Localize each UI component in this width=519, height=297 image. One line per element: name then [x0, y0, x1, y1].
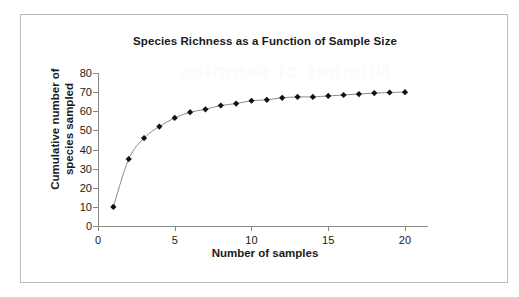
- data-point-marker: [310, 94, 316, 100]
- data-point-marker: [248, 98, 254, 104]
- x-tick-mark: [328, 226, 329, 231]
- x-tick-label: 5: [172, 234, 178, 246]
- x-tick-mark: [175, 226, 176, 231]
- data-point-marker: [294, 94, 300, 100]
- y-tick-label: 80: [58, 67, 98, 79]
- plot-area: 01020304050607080 05101520: [98, 73, 428, 226]
- y-tick-label: 20: [58, 182, 98, 194]
- y-tick-label: 70: [58, 86, 98, 98]
- data-point-marker: [126, 156, 132, 162]
- data-point-marker: [387, 89, 393, 95]
- data-point-marker: [279, 95, 285, 101]
- data-point-marker: [202, 106, 208, 112]
- data-point-marker: [218, 102, 224, 108]
- data-point-marker: [325, 93, 331, 99]
- data-point-marker: [156, 123, 162, 129]
- x-tick-label: 0: [95, 234, 101, 246]
- x-tick-mark: [405, 226, 406, 231]
- chart-title: Species Richness as a Function of Sample…: [21, 35, 509, 47]
- x-tick-mark: [98, 226, 99, 231]
- data-point-marker: [264, 97, 270, 103]
- y-tick-label: 30: [58, 163, 98, 175]
- x-tick-label: 15: [322, 234, 334, 246]
- data-point-marker: [340, 92, 346, 98]
- y-tick-label: 10: [58, 201, 98, 213]
- data-point-marker: [233, 101, 239, 107]
- y-tick-label: 0: [58, 220, 98, 232]
- data-point-marker: [172, 115, 178, 121]
- data-point-marker: [371, 90, 377, 96]
- x-tick-mark: [251, 226, 252, 231]
- data-point-marker: [187, 109, 193, 115]
- x-axis-line: [98, 226, 428, 227]
- y-tick-label: 40: [58, 144, 98, 156]
- data-point-marker: [402, 89, 408, 95]
- data-point-marker: [110, 204, 116, 210]
- x-axis-title: Number of samples: [21, 247, 509, 259]
- data-series-line: [98, 73, 428, 226]
- chart-figure-frame: Number of samples Species Richness as a …: [20, 14, 508, 283]
- y-tick-label: 50: [58, 124, 98, 136]
- data-point-marker: [356, 91, 362, 97]
- x-tick-label: 10: [245, 234, 257, 246]
- y-tick-label: 60: [58, 105, 98, 117]
- series-line: [113, 92, 405, 207]
- x-tick-label: 20: [399, 234, 411, 246]
